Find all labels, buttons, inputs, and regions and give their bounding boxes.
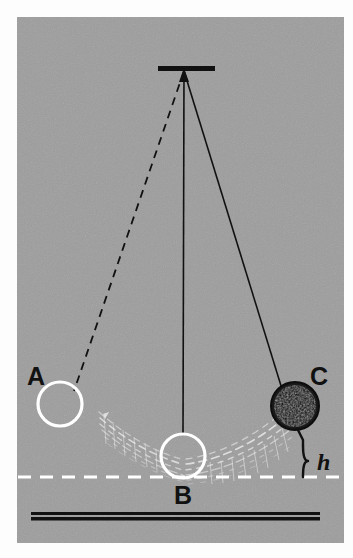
string-to-b xyxy=(183,71,184,434)
pendulum-diagram-svg: A B C h xyxy=(0,0,353,558)
label-height: h xyxy=(317,449,330,475)
ceiling-bar xyxy=(158,66,215,71)
photo-canvas xyxy=(17,17,344,543)
pendulum-figure: A B C h xyxy=(0,0,353,558)
label-position-b: B xyxy=(174,481,192,509)
label-position-c: C xyxy=(310,362,328,390)
label-position-a: A xyxy=(27,362,45,390)
